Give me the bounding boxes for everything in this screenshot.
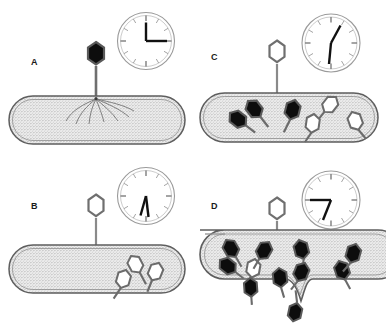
clock-panel-d [302,171,360,229]
phage-head-filled [88,42,104,65]
panel-d-illustration [193,160,386,323]
phage-filled [272,267,289,298]
clock-panel-b [118,168,175,225]
phage-attached-panel-b [89,195,104,247]
panel-c: C [193,0,386,160]
panel-c-illustration [193,0,386,160]
panel-a: A [0,0,193,160]
phage-attached-panel-a [88,42,104,97]
bacterium-panel-a [9,96,185,144]
phage-filled [244,278,259,306]
bacterium-panel-c [200,93,378,144]
clock-panel-c [302,14,360,72]
panel-b-illustration [0,160,193,308]
panel-d: D [193,160,386,323]
bacterium-panel-d-lysed [200,230,386,323]
phage-head-empty [89,195,104,217]
phage-attached-panel-d [270,198,285,232]
panel-a-illustration [0,0,193,160]
phage-head-empty [270,41,285,63]
phage-attached-panel-c [270,41,285,95]
phage-lytic-cycle-figure: A [0,0,386,323]
panel-b: B [0,160,193,308]
clock-panel-a [118,13,175,70]
bacterium-panel-b [9,245,185,302]
phage-head-empty [270,198,285,220]
